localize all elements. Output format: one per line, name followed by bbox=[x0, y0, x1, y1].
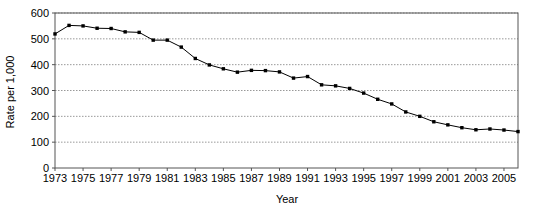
x-tick-label-1995: 1995 bbox=[351, 172, 375, 184]
data-point-1975 bbox=[81, 24, 84, 27]
data-point-1988 bbox=[264, 69, 267, 72]
data-point-2000 bbox=[432, 120, 435, 123]
x-tick-label-1983: 1983 bbox=[183, 172, 207, 184]
data-point-1984 bbox=[208, 63, 211, 66]
data-point-1985 bbox=[222, 67, 225, 70]
x-tick-label-1991: 1991 bbox=[295, 172, 319, 184]
x-tick-label-1987: 1987 bbox=[239, 172, 263, 184]
line-chart: 0100200300400500600 19731975197719791981… bbox=[0, 0, 535, 211]
data-point-1980 bbox=[152, 38, 155, 41]
y-tick-label-100: 100 bbox=[31, 136, 49, 148]
data-point-1987 bbox=[250, 69, 253, 72]
y-axis-title: Rate per 1,000 bbox=[4, 56, 16, 129]
data-point-1976 bbox=[95, 27, 98, 30]
y-tick-label-200: 200 bbox=[31, 110, 49, 122]
data-point-1996 bbox=[376, 98, 379, 101]
data-point-2002 bbox=[460, 126, 463, 129]
data-point-1993 bbox=[334, 84, 337, 87]
x-tick-label-2003: 2003 bbox=[464, 172, 488, 184]
x-tick-label-1997: 1997 bbox=[379, 172, 403, 184]
chart-container: 0100200300400500600 19731975197719791981… bbox=[0, 0, 535, 211]
x-axis-title: Year bbox=[276, 193, 299, 205]
data-point-2003 bbox=[474, 128, 477, 131]
x-tick-label-1979: 1979 bbox=[127, 172, 151, 184]
y-tick-label-300: 300 bbox=[31, 85, 49, 97]
x-tick-label-1981: 1981 bbox=[155, 172, 179, 184]
data-point-1989 bbox=[278, 70, 281, 73]
data-point-1997 bbox=[390, 102, 393, 105]
data-point-1998 bbox=[404, 110, 407, 113]
y-tick-label-600: 600 bbox=[31, 7, 49, 19]
x-tick-label-1999: 1999 bbox=[408, 172, 432, 184]
x-tick-label-1989: 1989 bbox=[267, 172, 291, 184]
data-point-1990 bbox=[292, 76, 295, 79]
data-point-1981 bbox=[166, 38, 169, 41]
data-point-1974 bbox=[67, 24, 70, 27]
data-point-2004 bbox=[488, 127, 491, 130]
data-point-1999 bbox=[418, 115, 421, 118]
data-point-2006 bbox=[516, 130, 519, 133]
data-point-1982 bbox=[180, 45, 183, 48]
data-point-1991 bbox=[306, 75, 309, 78]
data-point-1977 bbox=[109, 27, 112, 30]
data-point-1983 bbox=[194, 57, 197, 60]
data-point-1992 bbox=[320, 83, 323, 86]
x-tick-label-2001: 2001 bbox=[436, 172, 460, 184]
x-axis-tick-labels: 1973197519771979198119831985198719891991… bbox=[43, 172, 516, 184]
data-point-1986 bbox=[236, 70, 239, 73]
data-point-2005 bbox=[502, 128, 505, 131]
data-point-2001 bbox=[446, 123, 449, 126]
x-tick-label-1993: 1993 bbox=[323, 172, 347, 184]
data-point-1973 bbox=[53, 32, 56, 35]
x-tick-label-1975: 1975 bbox=[71, 172, 95, 184]
y-tick-label-500: 500 bbox=[31, 33, 49, 45]
data-point-1994 bbox=[348, 87, 351, 90]
data-point-1978 bbox=[123, 30, 126, 33]
x-tick-label-1973: 1973 bbox=[43, 172, 67, 184]
x-tick-label-1977: 1977 bbox=[99, 172, 123, 184]
x-tick-label-2005: 2005 bbox=[492, 172, 516, 184]
data-point-1979 bbox=[137, 31, 140, 34]
x-tick-label-1985: 1985 bbox=[211, 172, 235, 184]
y-tick-label-400: 400 bbox=[31, 59, 49, 71]
data-point-1995 bbox=[362, 91, 365, 94]
